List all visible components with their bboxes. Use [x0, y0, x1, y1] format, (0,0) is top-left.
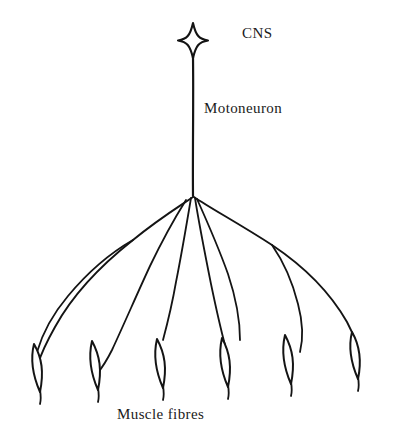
branch-left-outer	[38, 197, 193, 364]
label-muscle-fibres: Muscle fibres	[117, 406, 204, 423]
muscle-fibre-5	[283, 335, 293, 396]
cell-body-star-icon	[178, 23, 208, 58]
muscle-fibre-1	[32, 344, 42, 404]
branch-right-far-outer	[272, 245, 302, 352]
branch-left-inner	[163, 198, 191, 340]
label-motoneuron: Motoneuron	[204, 100, 282, 117]
branch-left-middle	[97, 200, 186, 374]
label-cns: CNS	[242, 25, 272, 42]
muscle-fibre-2	[90, 341, 100, 402]
muscle-fibre-6	[350, 332, 360, 391]
muscle-fibre-3	[155, 339, 165, 400]
branch-right-outer	[194, 197, 359, 357]
motoneuron-diagram: CNS Motoneuron Muscle fibres	[0, 0, 397, 443]
branch-right-inner	[195, 198, 225, 345]
motoneuron-figure	[0, 0, 397, 443]
muscle-fibre-4	[220, 338, 230, 399]
